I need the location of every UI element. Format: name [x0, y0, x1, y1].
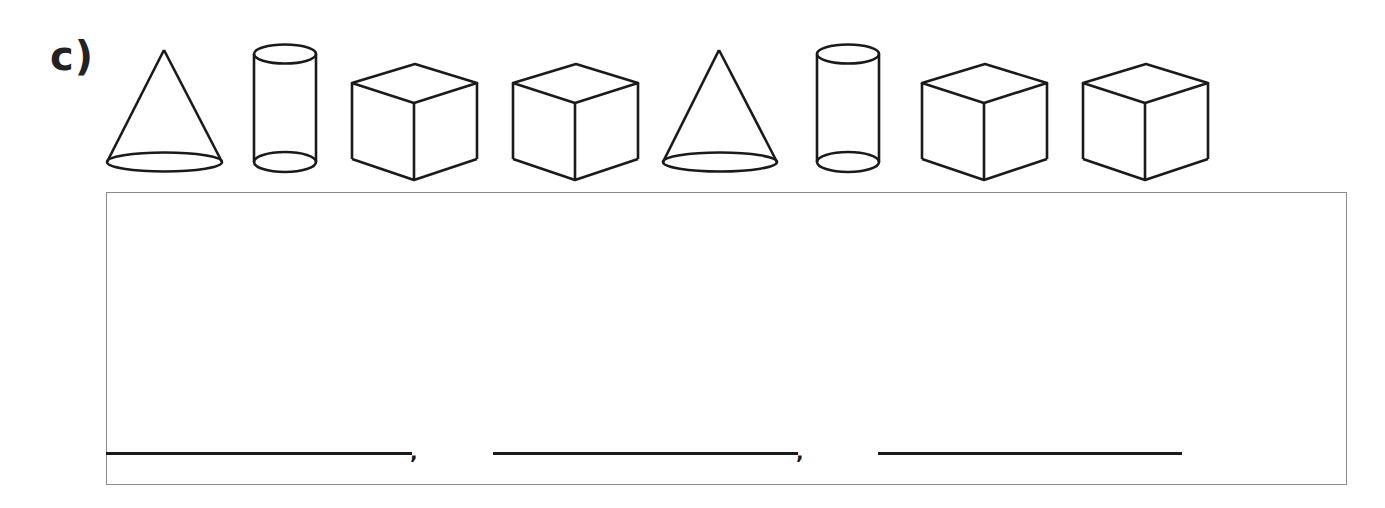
answer-blank-3[interactable] — [878, 452, 1182, 455]
separator-comma-1: , — [410, 442, 418, 462]
cube-icon — [916, 60, 1052, 186]
separator-comma-2: , — [796, 442, 804, 462]
cylinder-icon — [248, 40, 324, 178]
cone-icon — [656, 44, 786, 178]
cube-icon — [1077, 60, 1213, 186]
answer-blank-2[interactable] — [493, 452, 798, 455]
cylinder-icon — [811, 40, 887, 178]
answer-blank-1[interactable] — [106, 452, 412, 455]
cone-icon — [100, 44, 230, 178]
cube-icon — [346, 60, 482, 186]
exercise-label: c) — [50, 36, 94, 76]
answer-box — [106, 192, 1347, 485]
cube-icon — [507, 60, 643, 186]
